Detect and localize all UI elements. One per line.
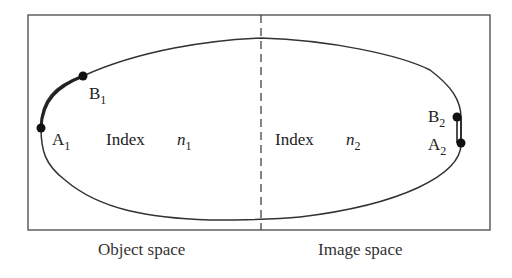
segment-a1-b1 bbox=[41, 76, 83, 128]
caption-image-space: Image space bbox=[318, 240, 402, 259]
label-b1: B1 bbox=[89, 84, 106, 107]
point-b1 bbox=[79, 72, 88, 81]
point-a2 bbox=[457, 139, 466, 148]
index-symbol-object: n1 bbox=[177, 130, 192, 153]
point-b2 bbox=[453, 113, 462, 122]
diagram: B1 A1 B2 A2 Index n1 Index n2 Object spa… bbox=[0, 0, 512, 278]
label-b2: B2 bbox=[428, 107, 445, 130]
optical-path-curve bbox=[41, 38, 461, 220]
caption-object-space: Object space bbox=[98, 240, 185, 259]
index-label-object: Index bbox=[106, 130, 145, 149]
index-symbol-image: n2 bbox=[346, 130, 361, 153]
label-a1: A1 bbox=[52, 130, 70, 153]
point-a1 bbox=[37, 124, 46, 133]
label-a2: A2 bbox=[428, 135, 446, 158]
frame-border bbox=[28, 15, 490, 230]
index-label-image: Index bbox=[275, 130, 314, 149]
